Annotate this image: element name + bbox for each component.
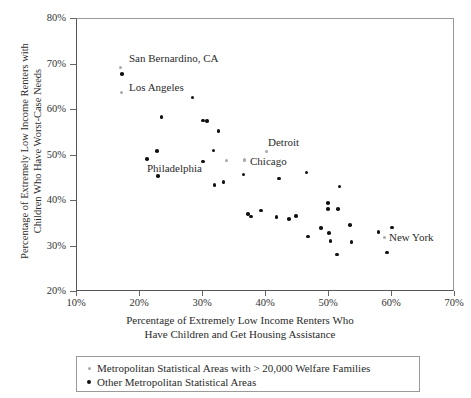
data-point-other: [377, 230, 381, 234]
annotation-label: Detroit: [268, 136, 299, 148]
data-point-other: [275, 215, 279, 219]
annotation-label: New York: [389, 231, 434, 243]
y-tick-label: 20%: [26, 286, 66, 297]
x-tick-label: 20%: [114, 297, 164, 308]
chart-legend: Metropolitan Statistical Areas with > 20…: [76, 356, 420, 392]
x-tick-label: 30%: [177, 297, 227, 308]
legend-label-other-metro: Other Metropolitan Statistical Areas: [97, 376, 256, 388]
data-point-other: [213, 183, 217, 187]
x-tick-mark: [76, 291, 77, 296]
data-point-other: [385, 251, 389, 255]
scatter-chart-figure: Percentage of Extremely Low Income Rente…: [0, 0, 471, 398]
y-tick-label: 70%: [26, 59, 66, 70]
data-point-other: [212, 149, 216, 153]
x-tick-label: 70%: [429, 297, 471, 308]
data-point-other: [145, 157, 149, 161]
data-point-other: [156, 174, 160, 178]
data-point-other: [259, 209, 263, 213]
data-point-other: [319, 226, 323, 230]
data-point-other: [335, 253, 339, 257]
data-point-other: [120, 72, 124, 76]
y-tick-label: 30%: [26, 241, 66, 252]
x-tick-mark: [202, 291, 203, 296]
annotation-label: Philadelphia: [147, 162, 202, 174]
legend-item-major-metro: Metropolitan Statistical Areas with > 20…: [87, 361, 370, 375]
x-tick-mark: [391, 291, 392, 296]
y-tick-label: 60%: [26, 104, 66, 115]
data-point-other: [338, 185, 342, 189]
x-axis-title-line2: Have Children and Get Housing Assistance: [145, 328, 336, 340]
data-point-other: [390, 226, 394, 230]
data-point-other: [155, 149, 159, 153]
data-point-other: [348, 223, 352, 227]
x-tick-label: 50%: [303, 297, 353, 308]
data-point-other: [277, 177, 281, 181]
data-point-other: [242, 173, 246, 177]
data-point-other: [222, 180, 226, 184]
x-tick-label: 40%: [240, 297, 290, 308]
legend-marker-gray-dot-icon: [88, 367, 91, 370]
x-tick-label: 10%: [51, 297, 101, 308]
y-tick-label: 40%: [26, 195, 66, 206]
data-point-major: [120, 91, 123, 94]
x-tick-mark: [454, 291, 455, 296]
data-point-other: [191, 96, 195, 100]
data-point-other: [287, 217, 291, 221]
x-tick-mark: [265, 291, 266, 296]
x-tick-label: 60%: [366, 297, 416, 308]
data-point-other: [326, 207, 330, 211]
data-point-other: [249, 215, 253, 219]
data-point-other: [305, 171, 309, 175]
x-axis-title-line1: Percentage of Extremely Low Income Rente…: [126, 314, 354, 326]
x-tick-mark: [328, 291, 329, 296]
annotation-label: San Bernardino, CA: [129, 52, 219, 64]
y-tick-label: 50%: [26, 150, 66, 161]
data-point-other: [336, 207, 340, 211]
data-point-major: [225, 159, 228, 162]
data-point-other: [217, 129, 221, 133]
data-point-major: [265, 150, 268, 153]
legend-label-major-metro: Metropolitan Statistical Areas with > 20…: [97, 362, 370, 374]
x-tick-mark: [139, 291, 140, 296]
data-point-other: [205, 119, 209, 123]
x-axis-title: Percentage of Extremely Low Income Rente…: [40, 313, 440, 341]
data-point-other: [329, 239, 333, 243]
data-point-major: [119, 66, 122, 69]
legend-marker-black-dot-icon: [87, 380, 91, 384]
annotation-label: Los Angeles: [129, 81, 184, 93]
data-point-other: [306, 235, 310, 239]
data-point-other: [326, 201, 330, 205]
data-point-other: [294, 214, 298, 218]
annotation-label: Chicago: [250, 155, 287, 167]
data-point-major: [383, 236, 386, 239]
legend-item-other-metro: Other Metropolitan Statistical Areas: [87, 375, 256, 389]
data-point-other: [350, 240, 354, 244]
data-point-other: [327, 231, 331, 235]
data-point-other: [160, 115, 164, 119]
y-tick-label: 80%: [26, 13, 66, 24]
